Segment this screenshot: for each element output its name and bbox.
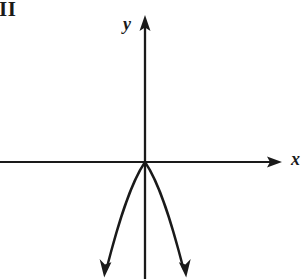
coordinate-plot — [0, 0, 305, 279]
panel-label: II — [0, 0, 16, 20]
parabola-left-arrowhead — [100, 259, 112, 278]
y-axis-label: y — [123, 15, 131, 33]
graph-figure: II y x — [0, 0, 305, 279]
x-axis-label: x — [291, 150, 300, 168]
